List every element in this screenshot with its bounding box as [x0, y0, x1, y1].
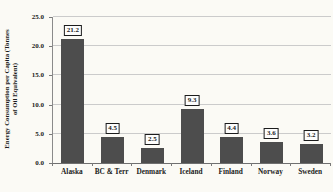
bar-value-label: 21.2 [64, 25, 82, 36]
plot-area: 21.24.52.59.34.43.63.2 [52, 17, 331, 164]
x-category-label: Alaska [61, 167, 83, 176]
bar-iceland [181, 109, 204, 163]
bar-chart: Energy Consumption per Capita (Tonnes of… [0, 0, 333, 192]
x-category-label: Sweden [298, 167, 322, 176]
y-tick-label: 0.0 [0, 159, 44, 167]
y-axis-title: Energy Consumption per Capita (Tonnes of… [3, 9, 23, 169]
bar-norway [260, 142, 283, 163]
x-category-label: Finland [219, 167, 243, 176]
x-axis-tick [52, 163, 53, 166]
x-category-label: Norway [258, 167, 283, 176]
y-axis-tick [49, 17, 52, 18]
bar-value-label: 9.3 [185, 95, 200, 106]
y-axis-tick [49, 134, 52, 135]
x-axis-tick [92, 163, 93, 166]
y-tick-label: 10.0 [0, 101, 44, 109]
y-axis-title-line2: of Oil Equivalent) [11, 9, 19, 169]
gridline [53, 74, 331, 75]
bar-value-label: 4.4 [224, 123, 239, 134]
x-axis-tick [211, 163, 212, 166]
x-category-label: Iceland [179, 167, 202, 176]
x-category-label: Denmark [136, 167, 166, 176]
bar-denmark [141, 148, 164, 163]
bar-value-label: 4.5 [105, 123, 120, 134]
y-axis-tick [49, 75, 52, 76]
y-axis-title-line1: Energy Consumption per Capita (Tonnes [3, 9, 11, 169]
bar-bc-terr [101, 137, 124, 163]
y-axis-tick [49, 46, 52, 47]
x-axis-tick [251, 163, 252, 166]
gridline [53, 45, 331, 46]
y-tick-label: 5.0 [0, 130, 44, 138]
x-axis-tick [330, 163, 331, 166]
bar-value-label: 3.6 [264, 128, 279, 139]
bar-finland [220, 137, 243, 163]
y-tick-label: 20.0 [0, 42, 44, 50]
x-axis-tick [131, 163, 132, 166]
y-tick-label: 25.0 [0, 13, 44, 21]
bar-alaska [61, 39, 84, 163]
x-axis-tick [171, 163, 172, 166]
gridline [53, 16, 331, 17]
x-axis-tick [290, 163, 291, 166]
bar-value-label: 2.5 [145, 134, 160, 145]
bar-sweden [300, 144, 323, 163]
x-category-label: BC & Terr [95, 167, 129, 176]
bar-value-label: 3.2 [304, 130, 319, 141]
y-axis-tick [49, 105, 52, 106]
y-tick-label: 15.0 [0, 71, 44, 79]
